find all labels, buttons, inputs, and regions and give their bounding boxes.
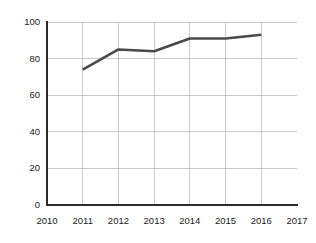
series-line [83, 35, 262, 70]
y-tick-label-80: 80 [14, 54, 40, 64]
line-chart: 020406080100 201020112012201320142015201… [0, 0, 316, 243]
x-tick-label-2012: 2012 [101, 216, 135, 226]
x-tick-label-2017: 2017 [280, 216, 314, 226]
vertical-gridlines [83, 22, 262, 205]
y-tick-label-40: 40 [14, 127, 40, 137]
x-tick-label-2015: 2015 [209, 216, 243, 226]
chart-canvas [0, 0, 316, 243]
x-tick-label-2010: 2010 [30, 216, 64, 226]
x-tick-label-2016: 2016 [244, 216, 278, 226]
y-tick-label-100: 100 [14, 17, 40, 27]
x-tick-label-2011: 2011 [66, 216, 100, 226]
y-tick-label-20: 20 [14, 163, 40, 173]
y-tick-label-60: 60 [14, 90, 40, 100]
y-tick-label-0: 0 [14, 200, 40, 210]
x-tick-label-2013: 2013 [137, 216, 171, 226]
x-tick-label-2014: 2014 [173, 216, 207, 226]
